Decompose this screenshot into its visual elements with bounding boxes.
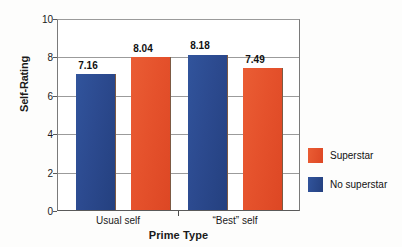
bar-value-best-self-superstar: 7.49 (222, 55, 288, 65)
legend-swatch-no-superstar-icon (308, 177, 323, 192)
legend-label-superstar: Superstar (330, 151, 373, 161)
y-tick-label-0: 0 (27, 207, 53, 217)
y-tick-label-8: 8 (27, 53, 53, 63)
y-tick-label-6: 6 (27, 92, 53, 102)
y-tick-label-4: 4 (27, 130, 53, 140)
legend-item-superstar: Superstar (308, 148, 387, 163)
x-label-usual-self: Usual self (68, 216, 168, 226)
legend-label-no-superstar: No superstar (330, 180, 387, 190)
bar-best-self-no-superstar (188, 55, 228, 210)
legend-swatch-superstar-icon (308, 148, 323, 163)
legend-item-no-superstar: No superstar (308, 177, 387, 192)
bar-usual-self-superstar (131, 57, 171, 210)
bar-best-self-superstar (243, 68, 283, 210)
y-axis-title: Self-Rating (18, 24, 30, 144)
y-tick-mark-0 (53, 211, 57, 212)
legend: Superstar No superstar (308, 148, 387, 206)
bar-value-best-self-no-superstar: 8.18 (167, 41, 233, 51)
y-tick-label-10: 10 (27, 15, 53, 25)
y-tick-label-2: 2 (27, 169, 53, 179)
x-label-best-self: “Best” self (185, 216, 285, 226)
bar-usual-self-no-superstar (76, 74, 116, 210)
x-axis-group-separator-tick (178, 211, 179, 216)
x-axis-title: Prime Type (57, 229, 300, 241)
bar-chart: Self-Rating 10 8 6 4 2 0 7.16 8.04 8.18 … (0, 0, 402, 247)
bar-value-usual-self-no-superstar: 7.16 (55, 61, 121, 71)
